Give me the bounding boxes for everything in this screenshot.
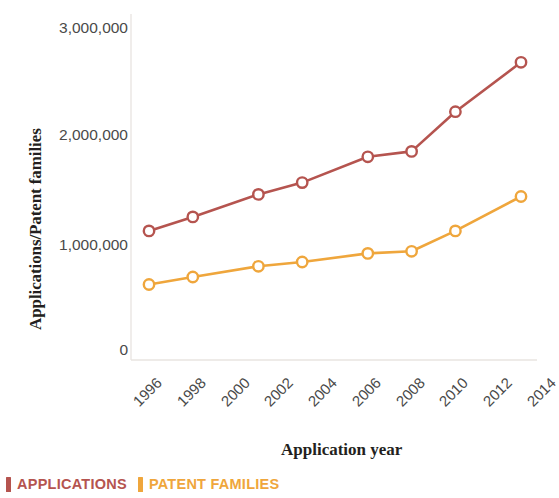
data-point-marker[interactable] bbox=[516, 57, 526, 67]
data-point-marker[interactable] bbox=[363, 248, 373, 258]
legend-item-label: PATENT FAMILIES bbox=[149, 476, 280, 492]
x-axis-title: Application year bbox=[281, 440, 402, 460]
data-point-marker[interactable] bbox=[297, 177, 307, 187]
legend-item-applications[interactable]: APPLICATIONS bbox=[6, 476, 127, 492]
legend-item-patent-families[interactable]: PATENT FAMILIES bbox=[138, 476, 280, 492]
series-line bbox=[149, 197, 521, 285]
data-point-marker[interactable] bbox=[144, 279, 154, 289]
series-layer bbox=[144, 57, 526, 290]
data-point-marker[interactable] bbox=[253, 261, 263, 271]
data-point-marker[interactable] bbox=[188, 212, 198, 222]
data-point-marker[interactable] bbox=[406, 246, 416, 256]
data-point-marker[interactable] bbox=[406, 146, 416, 156]
data-point-marker[interactable] bbox=[253, 189, 263, 199]
data-point-marker[interactable] bbox=[516, 191, 526, 201]
chart-legend: APPLICATIONS PATENT FAMILIES bbox=[6, 476, 279, 492]
series-line bbox=[149, 62, 521, 231]
legend-item-label: APPLICATIONS bbox=[17, 476, 127, 492]
data-point-marker[interactable] bbox=[188, 272, 198, 282]
data-point-marker[interactable] bbox=[450, 226, 460, 236]
legend-color-swatch bbox=[138, 477, 143, 492]
data-point-marker[interactable] bbox=[363, 152, 373, 162]
data-point-marker[interactable] bbox=[297, 257, 307, 267]
data-point-marker[interactable] bbox=[144, 226, 154, 236]
data-point-marker[interactable] bbox=[450, 107, 460, 117]
legend-color-swatch bbox=[6, 477, 11, 492]
